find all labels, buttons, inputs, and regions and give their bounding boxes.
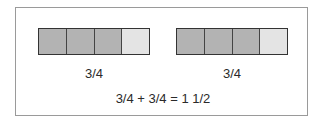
shaded-cell (39, 29, 67, 54)
equation-text: 3/4 + 3/4 = 1 1/2 (88, 91, 238, 106)
shaded-cell (233, 29, 261, 54)
shaded-cell (177, 29, 205, 54)
fraction-label-right: 3/4 (212, 66, 252, 81)
shaded-cell (95, 29, 123, 54)
fraction-label-left: 3/4 (74, 66, 114, 81)
shaded-cell (67, 29, 95, 54)
unshaded-cell (260, 29, 287, 54)
fraction-bar-left (38, 28, 150, 55)
unshaded-cell (122, 29, 149, 54)
fraction-bar-right (176, 28, 288, 55)
shaded-cell (205, 29, 233, 54)
